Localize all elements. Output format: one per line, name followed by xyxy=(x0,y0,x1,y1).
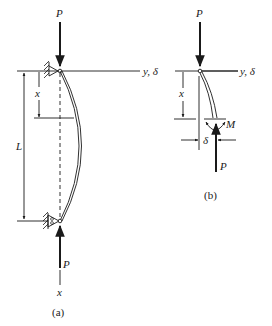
bottom-load-label-b: P xyxy=(219,160,227,172)
part-b: P y, δ x M δ xyxy=(174,7,256,202)
part-a: P y, δ L xyxy=(15,7,159,319)
bottom-pin-support xyxy=(43,212,62,229)
column-segment-b xyxy=(200,72,217,118)
pin-b xyxy=(198,69,202,73)
moment-label: M xyxy=(225,118,236,130)
y-axis-label-b: y, δ xyxy=(239,65,256,77)
buckling-column-diagram: P y, δ L xyxy=(0,0,272,326)
top-load-label-b: P xyxy=(195,7,203,19)
caption-b: (b) xyxy=(204,189,217,202)
deflected-column xyxy=(60,71,82,221)
deflection-label: δ xyxy=(203,134,209,146)
x-dimension xyxy=(34,72,74,118)
top-load-label: P xyxy=(55,7,63,19)
length-label: L xyxy=(15,140,22,152)
bottom-load-label: P xyxy=(62,258,70,270)
x-position-label: x xyxy=(34,87,40,99)
caption-a: (a) xyxy=(52,306,65,319)
x-position-label-b: x xyxy=(178,87,184,99)
y-axis-label: y, δ xyxy=(142,65,159,77)
x-axis-label: x xyxy=(56,286,62,298)
